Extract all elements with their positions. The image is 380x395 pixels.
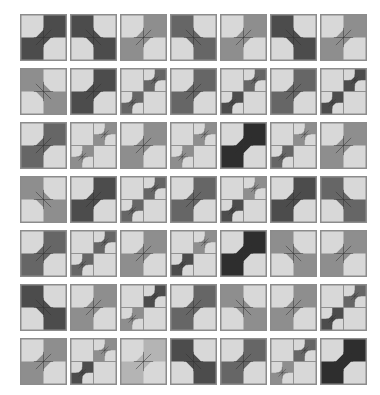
tile-pattern-icon — [220, 284, 267, 331]
quilt-tile — [270, 14, 317, 61]
tile-pattern-icon — [20, 284, 67, 331]
quilt-tile — [170, 14, 217, 61]
tile-pattern-icon — [170, 68, 217, 115]
quilt-tile — [270, 68, 317, 115]
tile-pattern-icon — [220, 230, 267, 277]
quilt-tile — [20, 122, 67, 169]
quilt-tile — [70, 68, 117, 115]
tile-pattern-icon — [220, 68, 267, 115]
tile-pattern-icon — [270, 284, 317, 331]
quilt-tile — [70, 230, 117, 277]
quilt-tile — [170, 122, 217, 169]
tile-pattern-icon — [20, 122, 67, 169]
tile-pattern-icon — [120, 230, 167, 277]
quilt-tile — [170, 176, 217, 223]
quilt-tile — [120, 338, 167, 385]
quilt-tile — [270, 230, 317, 277]
quilt-tile — [320, 338, 367, 385]
quilt-tile — [220, 230, 267, 277]
tile-pattern-icon — [320, 176, 367, 223]
quilt-tile — [270, 122, 317, 169]
quilt-tile — [220, 338, 267, 385]
quilt-tile — [120, 176, 167, 223]
quilt-tile — [70, 176, 117, 223]
tile-pattern-icon — [170, 176, 217, 223]
quilt-tile — [270, 338, 317, 385]
quilt-tile — [270, 176, 317, 223]
quilt-tile — [120, 68, 167, 115]
tile-pattern-icon — [120, 14, 167, 61]
tile-pattern-icon — [20, 230, 67, 277]
quilt-tile — [170, 230, 217, 277]
tile-pattern-icon — [120, 284, 167, 331]
quilt-tile — [120, 14, 167, 61]
quilt-tile — [320, 230, 367, 277]
tile-pattern-icon — [70, 230, 117, 277]
quilt-tile — [270, 284, 317, 331]
tile-pattern-icon — [170, 230, 217, 277]
tile-pattern-icon — [320, 68, 367, 115]
tile-pattern-icon — [320, 284, 367, 331]
quilt-tile — [220, 122, 267, 169]
quilt-tile — [20, 176, 67, 223]
quilt-tile — [20, 68, 67, 115]
quilt-tile — [20, 14, 67, 61]
tile-pattern-icon — [120, 176, 167, 223]
tile-pattern-icon — [70, 122, 117, 169]
tile-pattern-icon — [20, 68, 67, 115]
quilt-tile — [220, 176, 267, 223]
tile-pattern-icon — [320, 338, 367, 385]
tile-pattern-icon — [220, 338, 267, 385]
tile-grid — [0, 0, 380, 395]
tile-pattern-icon — [320, 230, 367, 277]
tile-pattern-icon — [270, 68, 317, 115]
tile-pattern-icon — [220, 122, 267, 169]
quilt-tile — [320, 14, 367, 61]
tile-pattern-icon — [20, 14, 67, 61]
tile-pattern-icon — [270, 122, 317, 169]
tile-pattern-icon — [120, 68, 167, 115]
tile-pattern-icon — [320, 14, 367, 61]
quilt-tile — [20, 230, 67, 277]
tile-pattern-icon — [70, 284, 117, 331]
tile-pattern-icon — [270, 176, 317, 223]
quilt-tile — [170, 338, 217, 385]
tile-pattern-icon — [270, 14, 317, 61]
quilt-tile — [320, 284, 367, 331]
tile-pattern-icon — [120, 122, 167, 169]
tile-pattern-icon — [70, 176, 117, 223]
quilt-tile — [220, 14, 267, 61]
tile-pattern-icon — [170, 14, 217, 61]
quilt-tile — [170, 284, 217, 331]
quilt-tile — [120, 122, 167, 169]
tile-pattern-icon — [220, 176, 267, 223]
tile-pattern-icon — [220, 14, 267, 61]
tile-pattern-icon — [70, 68, 117, 115]
quilt-tile — [70, 122, 117, 169]
quilt-tile — [320, 68, 367, 115]
tile-pattern-icon — [120, 338, 167, 385]
tile-pattern-icon — [70, 338, 117, 385]
quilt-tile — [120, 284, 167, 331]
tile-pattern-icon — [170, 284, 217, 331]
tile-pattern-icon — [20, 176, 67, 223]
quilt-tile — [20, 338, 67, 385]
tile-pattern-icon — [170, 122, 217, 169]
tile-pattern-icon — [70, 14, 117, 61]
tile-pattern-icon — [170, 338, 217, 385]
quilt-tile — [320, 176, 367, 223]
quilt-tile — [320, 122, 367, 169]
tile-pattern-icon — [320, 122, 367, 169]
quilt-tile — [120, 230, 167, 277]
tile-pattern-icon — [270, 338, 317, 385]
quilt-tile — [170, 68, 217, 115]
quilt-tile — [20, 284, 67, 331]
quilt-tile — [220, 68, 267, 115]
quilt-tile — [220, 284, 267, 331]
tile-pattern-icon — [270, 230, 317, 277]
quilt-tile — [70, 338, 117, 385]
tile-pattern-icon — [20, 338, 67, 385]
quilt-tile — [70, 14, 117, 61]
quilt-tile — [70, 284, 117, 331]
